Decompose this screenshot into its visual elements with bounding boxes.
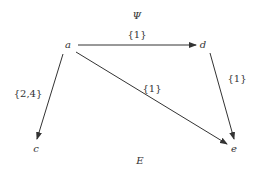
- diagram-title: Ψ: [133, 10, 142, 21]
- node-c: c: [33, 143, 39, 154]
- edge-label-a-d: {1}: [127, 29, 146, 40]
- edge-a-e: [76, 52, 227, 144]
- node-a: a: [65, 39, 71, 50]
- edge-d-e: [210, 53, 234, 139]
- edge-label-d-e: {1}: [227, 73, 246, 84]
- edge-label-a-e: {1}: [142, 83, 161, 94]
- node-d: d: [200, 39, 206, 50]
- diagram-footer: E: [136, 155, 143, 166]
- edge-label-a-c: {2,4}: [14, 88, 43, 99]
- node-e: e: [231, 143, 237, 154]
